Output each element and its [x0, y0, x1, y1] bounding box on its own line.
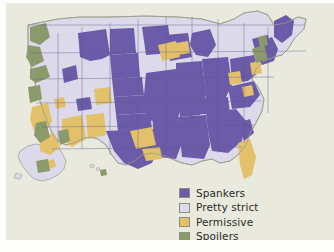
screenshot-root: Spankers Pretty strict Permissive Spoile… — [0, 0, 334, 252]
region-kansas — [114, 95, 148, 115]
region-nebraska — [112, 77, 144, 97]
alaska-aleutians — [14, 173, 22, 179]
map-legend: Spankers Pretty strict Permissive Spoile… — [179, 186, 299, 240]
region-utah-patch — [76, 97, 92, 111]
legend-label-permissive: Permissive — [196, 217, 253, 228]
region-florida — [238, 139, 256, 179]
legend-item-spoilers: Spoilers — [179, 230, 299, 241]
region-montana-east — [110, 28, 136, 55]
legend-swatch-spoilers — [179, 232, 190, 241]
region-newmexico — [86, 113, 106, 139]
region-illinois-gold — [176, 41, 190, 55]
region-dakotas — [110, 53, 140, 79]
legend-item-pretty-strict: Pretty strict — [179, 201, 299, 215]
legend-item-spankers: Spankers — [179, 186, 299, 200]
legend-swatch-permissive — [179, 217, 190, 227]
legend-label-pretty-strict: Pretty strict — [196, 202, 259, 213]
region-mississippi-alabama — [178, 115, 210, 159]
region-hawaii-green — [100, 169, 107, 176]
legend-item-permissive: Permissive — [179, 215, 299, 229]
legend-swatch-pretty-strict — [179, 203, 190, 213]
region-newjersey-gold — [250, 61, 262, 75]
legend-swatch-spankers — [179, 188, 190, 198]
legend-label-spoilers: Spoilers — [196, 231, 239, 240]
region-alaska-green — [36, 159, 50, 173]
legend-label-spankers: Spankers — [196, 188, 245, 199]
region-ohio-gold — [228, 71, 242, 85]
region-northern-plains — [78, 29, 110, 61]
map-panel: Spankers Pretty strict Permissive Spoile… — [6, 3, 334, 240]
